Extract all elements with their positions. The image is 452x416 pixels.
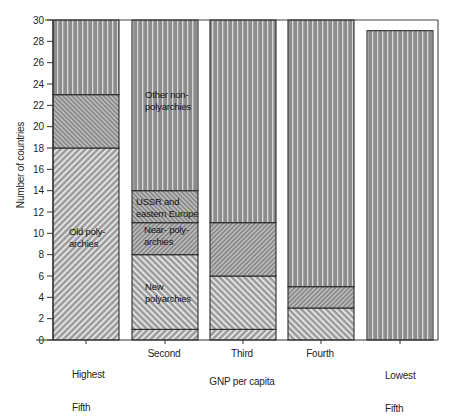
y-tick-label: 22 xyxy=(33,100,45,111)
y-tick-label: 12 xyxy=(33,207,45,218)
y-tick-label: 2 xyxy=(38,313,44,324)
bar-segment xyxy=(288,287,354,308)
y-tick-label: 26 xyxy=(33,57,45,68)
y-tick-label: 8 xyxy=(38,249,44,260)
x-axis-title: GNP per capita xyxy=(209,376,274,387)
bar-lowest-fifth xyxy=(367,31,433,340)
bar-segment xyxy=(210,276,276,329)
bar-segment xyxy=(210,223,276,276)
y-tick-label: 18 xyxy=(33,143,45,154)
label-old-polyarchies: Old poly- archies xyxy=(69,226,105,249)
y-axis-title: Number of countries xyxy=(15,122,26,208)
y-tick-label: 10 xyxy=(33,228,45,239)
bar-segment xyxy=(288,308,354,340)
label-new-polyarchies: New polyarchies xyxy=(145,281,191,304)
y-tick-label: 14 xyxy=(33,185,45,196)
bar-segment xyxy=(132,329,198,340)
bar-segment xyxy=(53,20,119,95)
label-ussr-eastern-europe: USSR and eastern Europe xyxy=(136,196,198,219)
bar-segment xyxy=(53,95,119,148)
x-label-line: Fifth xyxy=(72,402,105,413)
label-near-polyarchies: Near- poly- archies xyxy=(144,224,189,247)
x-label-lowest-fifth: Lowest Fifth xyxy=(385,348,416,416)
y-tick-label: 20 xyxy=(33,121,45,132)
bar-segment xyxy=(210,20,276,223)
x-label-third: Third xyxy=(231,348,253,359)
bar-segment xyxy=(288,20,354,287)
y-tick-label: 30 xyxy=(33,15,45,26)
label-other-non-polyarchies: Other non- polyarchies xyxy=(145,89,191,112)
x-label-line: Fifth xyxy=(385,403,416,414)
bar-segment xyxy=(367,31,433,340)
bar-segment xyxy=(210,329,276,340)
bars xyxy=(53,20,433,340)
y-tick-label: 24 xyxy=(33,79,45,90)
y-tick-label: 4 xyxy=(38,292,44,303)
bar-highest-fifth xyxy=(53,20,119,340)
y-tick-label: 16 xyxy=(33,164,45,175)
y-tick-label: 6 xyxy=(38,271,44,282)
bar-third xyxy=(210,20,276,340)
x-label-second: Second xyxy=(148,348,181,359)
y-tick-label: 28 xyxy=(33,36,45,47)
y-tick-label: 0 xyxy=(38,335,44,346)
x-label-line: Highest xyxy=(72,369,105,380)
x-label-fourth: Fourth xyxy=(306,348,334,359)
bar-fourth xyxy=(288,20,354,340)
x-label-highest-fifth: Highest Fifth xyxy=(72,347,105,416)
x-label-line: Lowest xyxy=(385,370,416,381)
